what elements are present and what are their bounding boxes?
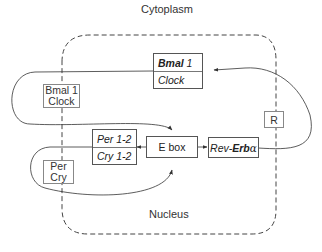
bmal-clock-cytoplasm-node: Bmal 1 Clock xyxy=(43,84,80,108)
per-cry-12-node: Per 1-2 Cry 1-2 xyxy=(92,129,137,165)
cry-label: Cry xyxy=(44,172,73,183)
bmal-number: 1 xyxy=(184,57,193,69)
bmal-row: Bmal 1 xyxy=(154,54,202,71)
ebox-label: E box xyxy=(159,141,186,153)
arrow-bmal-clock-to-ebox xyxy=(12,71,172,130)
nucleus-label: Nucleus xyxy=(149,208,189,220)
rev-erb-node: Rev-Erbα xyxy=(208,137,259,158)
bmal-clock-nucleus-node: Bmal 1 Clock xyxy=(153,53,203,89)
r-node: R xyxy=(264,111,284,128)
r-label: R xyxy=(270,114,278,126)
ebox-node: E box xyxy=(146,136,198,158)
clock-row: Clock xyxy=(154,71,202,88)
rev-prefix: Rev- xyxy=(210,142,232,154)
per-12-row: Per 1-2 xyxy=(93,130,136,147)
erb-label: Erb xyxy=(232,142,250,154)
clock-label: Clock xyxy=(44,96,79,107)
cytoplasm-label: Cytoplasm xyxy=(141,3,193,15)
cry-12-row: Cry 1-2 xyxy=(93,147,136,164)
bmal-gene: Bmal xyxy=(158,57,184,69)
alpha-symbol: α xyxy=(250,142,257,154)
per-cry-cytoplasm-node: Per Cry xyxy=(43,160,74,184)
